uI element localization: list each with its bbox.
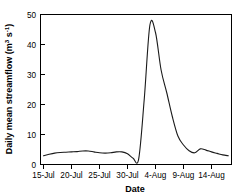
y-tick-label: 40 xyxy=(27,41,37,50)
x-tick-label: 15-Jul xyxy=(32,171,54,180)
y-tick-label: 20 xyxy=(27,101,37,110)
y-axis-title-mid: s xyxy=(4,32,14,40)
svg-text:Daily mean streamflow (m3 s-1): Daily mean streamflow (m3 s-1) xyxy=(3,24,14,155)
x-tick-label: 9-Aug xyxy=(173,171,195,180)
y-axis-title: Daily mean streamflow (m3 s-1) xyxy=(3,24,14,155)
x-tick-label: 25-Jul xyxy=(88,171,110,180)
chart-figure: 0 10 20 30 40 50 15-Jul 20-Jul 25-Jul 30… xyxy=(0,0,239,196)
y-axis-title-main: Daily mean streamflow (m xyxy=(4,43,14,154)
x-axis-title: Date xyxy=(125,184,145,194)
x-tick-label: 30-Jul xyxy=(116,171,138,180)
x-tick-label: 4-Aug xyxy=(145,171,167,180)
x-tick-label: 20-Jul xyxy=(60,171,82,180)
y-tick-label: 10 xyxy=(27,131,37,140)
y-tick-label: 50 xyxy=(27,11,37,20)
y-axis-title-end: ) xyxy=(4,24,14,27)
y-tick-label: 30 xyxy=(27,71,37,80)
y-tick-label: 0 xyxy=(31,161,36,170)
streamflow-line-chart: 0 10 20 30 40 50 15-Jul 20-Jul 25-Jul 30… xyxy=(0,0,239,196)
x-tick-label: 14-Aug xyxy=(198,171,225,180)
